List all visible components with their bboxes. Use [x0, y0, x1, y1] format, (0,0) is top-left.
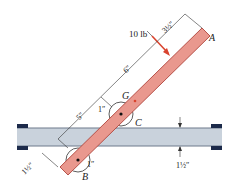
dim-rail-thickness: 1½″ [176, 161, 189, 170]
lever-diagram: A B C G 10 lb 3½″ 6″ 5″ 1″ 1″ 1½″ 1½″ [0, 0, 228, 187]
rail-cap-bottom-left [17, 146, 28, 150]
dim-g-to-rail: 5″ [74, 110, 86, 122]
dimension-bar-width [42, 153, 58, 167]
force-label: 10 lb [129, 29, 148, 39]
label-point-b: B [82, 171, 88, 182]
rail-dim-arrowhead-bottom [178, 146, 182, 151]
rail-dim-arrowhead-top [178, 123, 182, 128]
center-of-gravity-dot [134, 100, 137, 103]
dim-offset-b: 1″ [87, 160, 94, 169]
rail-cap-bottom-right [211, 146, 222, 150]
dim-force-to-g: 6″ [121, 63, 133, 75]
diagram-canvas: A B C G 10 lb 3½″ 6″ 5″ 1″ 1″ 1½″ 1½″ [0, 0, 228, 187]
label-point-g: G [122, 90, 129, 101]
rail-body [17, 128, 222, 146]
dim-a-to-force: 3½″ [160, 19, 176, 35]
extension-line-force [147, 31, 152, 36]
force-arrow [152, 36, 170, 56]
label-point-c: C [135, 117, 142, 128]
extension-line-a [185, 14, 202, 28]
rail [17, 124, 222, 150]
pin-dot-b [76, 158, 79, 161]
dim-bar-width: 1½″ [20, 161, 36, 177]
rail-cap-top-right [211, 124, 222, 128]
pin-dot-g-offset [119, 112, 122, 115]
extension-line-bar-width [42, 153, 58, 167]
label-point-a: A [208, 32, 216, 43]
dim-offset-g: 1″ [98, 105, 105, 114]
rail-cap-top-left [17, 124, 28, 128]
